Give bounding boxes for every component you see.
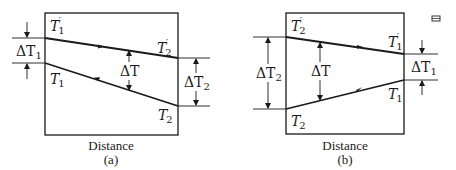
panel-caption: (b): [337, 152, 352, 167]
temperature-profile-diagram: ΔT1 ΔT2 ΔT T1′ T2′ T1 T2 Distance (a) ΔT…: [0, 0, 456, 170]
t2-prime-label: T2′: [291, 15, 306, 36]
t2-label: T2: [158, 107, 173, 125]
t2-prime-label: T2′: [157, 37, 172, 58]
t1-prime-label: T1′: [50, 15, 65, 36]
lower-stream-line: [45, 63, 178, 106]
x-axis-label: Distance: [88, 138, 134, 153]
delta-t2-label: ΔT2: [256, 65, 282, 83]
delta-t-label: ΔT: [120, 63, 140, 79]
t1-label: T1: [388, 86, 403, 104]
delta-t1-label: ΔT1: [16, 43, 42, 61]
t1-prime-label: T1′: [388, 31, 403, 52]
lower-stream-line: [286, 80, 404, 109]
upper-stream-line: [286, 37, 404, 54]
flow-arrow-right-icon: [98, 45, 104, 49]
t1-label: T1: [50, 71, 65, 89]
t2-label: T2: [291, 113, 306, 131]
delta-t-label: ΔT: [311, 63, 331, 79]
delta-t1-label: ΔT1: [411, 59, 437, 77]
panel-caption: (a): [104, 152, 118, 167]
x-axis-label: Distance: [322, 138, 368, 153]
panel-a: ΔT1 ΔT2 ΔT T1′ T2′ T1 T2 Distance (a): [12, 13, 210, 167]
panel-b: ΔT2 ΔT1 ΔT T2′ T1′ T2 T1 Distance (b): [253, 13, 440, 167]
scan-mark-icon: [432, 16, 440, 21]
delta-t2-label: ΔT2: [184, 74, 210, 92]
